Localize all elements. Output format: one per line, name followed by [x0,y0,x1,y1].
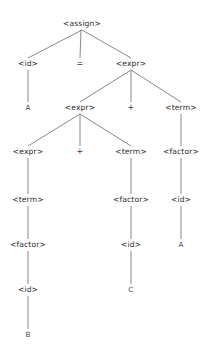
tree-node-nonterminal: <factor> [9,241,47,249]
tree-node-nonterminal: <expr> [12,148,44,156]
tree-node-nonterminal: <term> [164,104,197,112]
tree-node-nonterminal: <id> [120,241,142,249]
tree-node-nonterminal: <factor> [112,196,150,204]
tree-node-nonterminal: <expr> [115,60,147,68]
tree-node-nonterminal: <term> [11,196,44,204]
tree-node-operator: + [76,148,85,156]
tree-node-terminal: A [24,104,31,111]
tree-edge [82,30,131,58]
tree-node-operator: = [76,60,85,68]
tree-edge [80,30,81,58]
parse-tree-edges-layer [0,0,208,350]
tree-node-nonterminal: <id> [170,196,192,204]
tree-node-operator: + [127,104,136,112]
tree-node-terminal: B [24,331,31,338]
tree-node-nonterminal: <term> [114,148,147,156]
tree-edge [131,70,181,102]
tree-node-terminal: A [177,241,184,248]
tree-edge [28,114,80,146]
tree-node-nonterminal: <id> [17,60,39,68]
edges-group [28,30,181,329]
tree-node-nonterminal: <id> [17,286,39,294]
tree-node-terminal: C [127,286,134,293]
tree-edge [80,70,131,102]
tree-node-nonterminal: <factor> [162,148,200,156]
tree-node-nonterminal: <assign> [62,20,102,28]
tree-edge [28,30,82,58]
tree-edge [80,114,131,146]
tree-node-nonterminal: <expr> [64,104,96,112]
parse-tree-diagram: <assign><id>=<expr>A<expr>+<term><expr>+… [0,0,208,350]
